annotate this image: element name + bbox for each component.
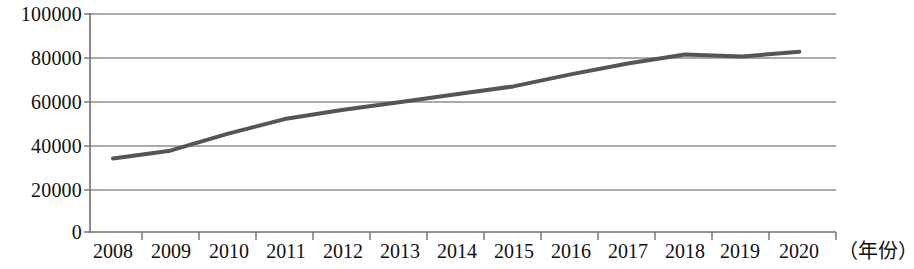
x-axis-tick-label: 2008 <box>93 238 133 264</box>
x-axis-tick-label: 2017 <box>608 238 648 264</box>
x-axis-tick-label: 2011 <box>266 238 305 264</box>
y-axis-tick-label: 40000 <box>31 136 82 156</box>
x-axis-tick-label: 2020 <box>779 238 819 264</box>
y-axis-tick-labels: 100000 80000 60000 40000 20000 0 <box>0 0 82 269</box>
y-axis-tick-label: 80000 <box>31 48 82 68</box>
line-chart: 100000 80000 60000 40000 20000 0 <box>0 0 914 269</box>
x-axis-tick-labels: 2008 2009 2010 2011 2012 2013 2014 2015 … <box>0 238 914 269</box>
x-axis-tick-label: 2016 <box>551 238 591 264</box>
x-axis-tick-label: 2013 <box>380 238 420 264</box>
y-axis-tick-label: 100000 <box>21 4 82 24</box>
data-series-line <box>113 52 799 159</box>
y-axis-ticks <box>84 14 90 232</box>
x-axis-tick-label: 2019 <box>720 238 760 264</box>
x-axis-tick-label: 2009 <box>151 238 191 264</box>
gridlines <box>90 14 836 190</box>
x-axis-tick-label: 2015 <box>494 238 534 264</box>
y-axis-tick-label: 20000 <box>31 180 82 200</box>
plot-area <box>0 0 914 269</box>
y-axis-tick-label: 60000 <box>31 92 82 112</box>
x-axis-title: （年份） <box>838 238 914 264</box>
x-axis-tick-label: 2018 <box>665 238 705 264</box>
x-axis-tick-label: 2012 <box>323 238 363 264</box>
x-axis-tick-label: 2010 <box>209 238 249 264</box>
x-axis-tick-label: 2014 <box>437 238 477 264</box>
